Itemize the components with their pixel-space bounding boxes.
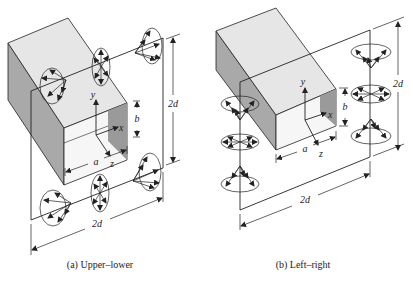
panel-a: y x z b a 2d [8, 18, 180, 271]
radiator-disk-right-center [351, 85, 391, 103]
axis-x-label: x [327, 109, 333, 120]
dim-height-label: 2d [393, 78, 404, 89]
dim-a-label: a [94, 156, 99, 167]
dim-width-label: 2d [92, 218, 103, 229]
dim-a-label: a [303, 143, 308, 154]
radiator-cone-lower-right [133, 153, 161, 191]
radiator-cone-upper-right [135, 28, 162, 64]
dim-b-label: b [343, 101, 348, 112]
axis-y-label: y [90, 89, 96, 100]
axis-z-label: z [109, 158, 114, 169]
radiator-cone-right-upper [351, 44, 391, 68]
waveguide-box [216, 8, 336, 150]
dim-height-label: 2d [168, 98, 179, 109]
radiator-cone-lower-left [40, 190, 71, 226]
axis-y-label: y [300, 76, 306, 87]
dim-width-label: 2d [300, 194, 311, 205]
panel-b: y x z b a 2d [216, 8, 404, 271]
caption-a: (a) Upper–lower [67, 259, 134, 271]
radiator-cone-right-lower [351, 119, 391, 144]
radiator-disk-lower-center [91, 174, 109, 212]
figure-canvas: y x z b a 2d [0, 0, 413, 282]
axis-z-label: z [318, 148, 323, 159]
caption-b: (b) Left–right [276, 259, 331, 271]
axis-x-label: x [118, 122, 124, 133]
dim-b-label: b [135, 113, 140, 124]
